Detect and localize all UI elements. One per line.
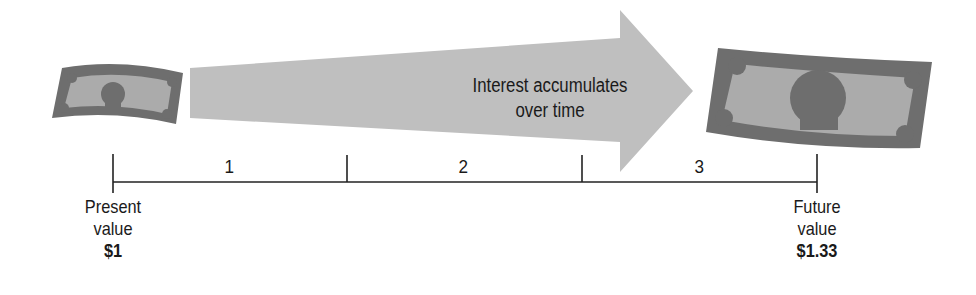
dollar-bill-large-icon — [706, 48, 932, 148]
present-label-line2: value — [70, 218, 156, 240]
dollar-bill-small-icon — [52, 64, 183, 124]
period-1-label: 1 — [225, 156, 235, 178]
future-value-label: Future value $1.33 — [774, 196, 860, 262]
future-label-line2: value — [774, 218, 860, 240]
period-2-label: 2 — [459, 156, 469, 178]
arrow-label-line1: Interest accumulates — [449, 73, 651, 98]
arrow-label: Interest accumulates over time — [449, 73, 651, 123]
arrow-label-line2: over time — [449, 98, 651, 123]
present-value-label: Present value $1 — [70, 196, 156, 262]
present-value-amount: $1 — [70, 240, 156, 262]
period-3-label: 3 — [695, 156, 705, 178]
future-value-amount: $1.33 — [774, 240, 860, 262]
present-label-line1: Present — [70, 196, 156, 218]
future-label-line1: Future — [774, 196, 860, 218]
